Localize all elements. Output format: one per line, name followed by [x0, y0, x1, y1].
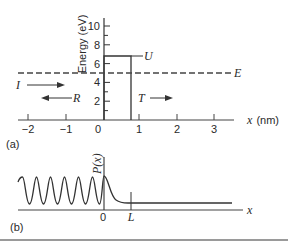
potential-barrier	[104, 56, 131, 120]
panel-a-label: (a)	[6, 138, 19, 150]
barrier-label-U: U	[144, 49, 154, 63]
x-tick-2: 2	[174, 123, 180, 135]
energy-axis-title: Energy (eV)	[76, 15, 88, 74]
energy-label-E: E	[233, 66, 242, 80]
x-tick-1: 1	[136, 123, 142, 135]
panel-b-y-title: P(x)	[90, 153, 104, 175]
panel-a: 2 4 6 8 10 Energy (eV) −2 −1 0 1 2 3 x (…	[6, 15, 279, 150]
bottom-separator	[0, 239, 288, 241]
x-tick-0: 0	[95, 123, 101, 135]
panel-b-tick-0: 0	[100, 211, 106, 223]
incident-label-I: I	[15, 78, 21, 92]
reflected-label-R: R	[72, 91, 81, 105]
x-tick-3: 3	[211, 123, 217, 135]
panel-b-tick-L: L	[127, 210, 135, 224]
position-axis-ticks	[28, 114, 214, 120]
panel-b-x-title: x	[246, 203, 253, 217]
panel-b: P(x) 0 L x (b)	[10, 153, 253, 233]
energy-tick-6: 6	[94, 58, 100, 70]
x-axis-title: x (nm)	[246, 113, 279, 127]
transmitted-label-T: T	[138, 91, 146, 105]
tunneling-figure: 2 4 6 8 10 Energy (eV) −2 −1 0 1 2 3 x (…	[0, 0, 288, 245]
energy-tick-2: 2	[94, 95, 100, 107]
incident-arrowhead-icon	[57, 82, 65, 88]
x-tick-neg2: −2	[22, 123, 35, 135]
energy-axis-ticks	[104, 26, 110, 111]
panel-b-label: (b)	[10, 221, 23, 233]
probability-density-curve	[18, 176, 232, 204]
energy-tick-8: 8	[94, 39, 100, 51]
energy-tick-4: 4	[94, 76, 100, 88]
transmitted-arrowhead-icon	[165, 95, 173, 101]
energy-tick-10: 10	[88, 20, 100, 32]
x-tick-neg1: −1	[60, 123, 73, 135]
reflected-arrowhead-icon	[41, 95, 49, 101]
